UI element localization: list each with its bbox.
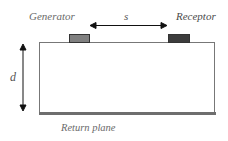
- return-plane-label: Return plane: [61, 123, 116, 134]
- height-arrow: [20, 44, 26, 111]
- dimension-arrows: [0, 0, 228, 141]
- spacing-arrow: [90, 23, 167, 29]
